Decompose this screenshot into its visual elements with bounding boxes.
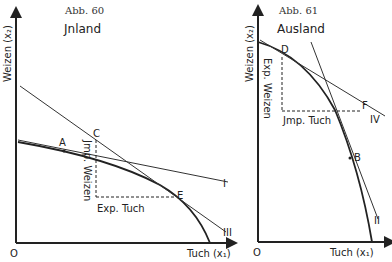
export-label: Exp. Tuch [97, 203, 145, 214]
y-axis-label: Weizen (x₂) [244, 25, 255, 82]
figure-jnland: Abb. 60 Jnland Weizen (x₂) Tuch (x₁) O A… [2, 5, 232, 259]
export-label: Exp. Weizen [262, 58, 273, 119]
line-I-label: I [223, 178, 226, 189]
figure-ausland: Abb. 61 Ausland Weizen (x₂) Tuch (x₁) O … [244, 5, 390, 258]
transformation-curve [258, 42, 372, 242]
import-label: Jmp. Weizen [82, 139, 93, 201]
figure-title: Ausland [277, 22, 325, 36]
origin-label: O [253, 247, 261, 258]
line-IV-label: IV [370, 114, 380, 125]
caption: Abb. 61 [278, 5, 318, 16]
x-axis-label: Tuch (x₁) [186, 248, 231, 259]
point-A-label: A [59, 137, 66, 148]
origin-label: O [10, 248, 18, 259]
line-III-label: III [223, 227, 232, 238]
point-D-label: D [281, 44, 289, 55]
price-line-I [18, 140, 228, 182]
y-axis-label: Weizen (x₂) [2, 25, 13, 82]
point-E-label: E [177, 190, 183, 201]
figure-title: Jnland [63, 22, 101, 36]
caption: Abb. 60 [64, 5, 104, 16]
point-C-label: C [93, 128, 100, 139]
point-B-marker [349, 157, 352, 160]
point-A-marker [63, 150, 66, 153]
trade-diagrams: Abb. 60 Jnland Weizen (x₂) Tuch (x₁) O A… [0, 0, 392, 262]
point-B-label: B [354, 152, 361, 163]
line-II-label: II [374, 215, 380, 226]
point-F-label: F [362, 100, 368, 111]
x-axis-label: Tuch (x₁) [329, 247, 374, 258]
import-label: Jmp. Tuch [282, 115, 331, 126]
price-line-II [311, 42, 378, 219]
